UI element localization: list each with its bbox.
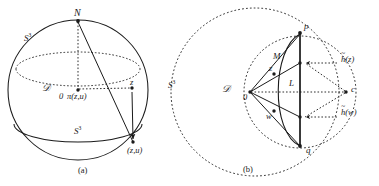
label-point-c: c bbox=[351, 85, 355, 94]
label-origin-b: 0 bbox=[243, 93, 247, 102]
figure-drawing bbox=[0, 0, 379, 186]
h-tilde-w-arg: (w) bbox=[345, 107, 356, 117]
caption-panel-b: (b) bbox=[243, 164, 253, 174]
panel-b-group bbox=[171, 8, 356, 176]
foot-point-hz bbox=[298, 61, 301, 64]
drop-arrow-to-sphere-point bbox=[132, 92, 133, 139]
foot-point-hw bbox=[298, 115, 301, 118]
h-tilde-w-tilde: ~ bbox=[341, 104, 345, 111]
h-tilde-z-base-wrap: ~h bbox=[341, 55, 345, 64]
label-sphere-point: (z,u) bbox=[127, 146, 142, 155]
point-p bbox=[298, 31, 302, 35]
point-w-b bbox=[272, 109, 275, 112]
point-q bbox=[298, 144, 302, 148]
point-c bbox=[344, 90, 347, 93]
label-point-z-b: z bbox=[269, 64, 272, 73]
geodesic-arc-M bbox=[278, 34, 300, 146]
label-h-tilde-z: ~h(z) bbox=[341, 55, 354, 64]
h-tilde-z-arg: (z) bbox=[345, 54, 354, 64]
ray-c-to-foot-hz bbox=[305, 63, 345, 91]
segment-origin-to-q bbox=[250, 92, 300, 146]
label-disk-b: 𝒟 bbox=[222, 84, 230, 94]
caption-panel-a: (a) bbox=[78, 165, 87, 175]
label-chord-L: L bbox=[289, 79, 294, 88]
label-equator-point: z bbox=[130, 78, 133, 87]
label-point-p: p bbox=[304, 22, 309, 31]
label-projection-point: π(z,u) bbox=[67, 92, 87, 101]
label-point-q: q bbox=[306, 146, 311, 155]
label-sphere-b: S3 bbox=[168, 80, 175, 90]
h-tilde-z-tilde: ~ bbox=[341, 51, 345, 58]
north-pole-point bbox=[76, 19, 80, 23]
ray-north-to-sphere-point bbox=[78, 22, 133, 142]
label-disk-a: 𝒟 bbox=[42, 83, 50, 93]
h-tilde-w-base-wrap: ~h bbox=[341, 108, 345, 117]
label-sphere-bottom-exponent: 3 bbox=[79, 125, 82, 131]
label-point-w-b: w bbox=[266, 112, 272, 121]
segment-origin-to-foot-hw bbox=[250, 92, 300, 117]
radius-origin-to-equator-point bbox=[79, 88, 131, 89]
label-h-tilde-w: ~h(w) bbox=[341, 108, 357, 117]
label-sphere-bottom: S3 bbox=[74, 126, 81, 136]
label-north-pole: N bbox=[74, 8, 81, 18]
origin-point-b bbox=[248, 90, 251, 93]
figure-container: N S3 𝒟 0 π(z,u) z (z,u) S3 (a) S3 𝒟 0 p … bbox=[0, 0, 379, 186]
label-geodesic-M: M bbox=[273, 52, 281, 61]
sphere-point bbox=[131, 140, 134, 143]
point-z-b bbox=[272, 72, 275, 75]
label-sphere-top-exponent: 3 bbox=[29, 32, 32, 38]
label-sphere-top: S3 bbox=[24, 33, 31, 43]
label-sphere-b-exponent: 3 bbox=[173, 79, 176, 85]
label-origin-a: 0 bbox=[59, 92, 63, 101]
